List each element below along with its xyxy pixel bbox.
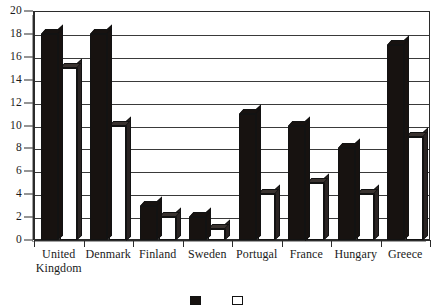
x-tick-mark: [282, 240, 283, 247]
y-tick-mark: [24, 148, 33, 149]
bar-face: [140, 206, 157, 240]
y-tick-mark: [24, 240, 33, 241]
y-tick-label: 4: [16, 188, 22, 200]
y-tick-label: 18: [10, 28, 22, 40]
y-tick-mark: [24, 217, 33, 218]
bar-face: [338, 148, 355, 240]
bar-side: [107, 24, 112, 240]
bar-side: [126, 116, 131, 240]
x-category-label: Denmark: [84, 247, 134, 261]
y-tick-mark: [24, 125, 33, 126]
y-tick-label: 12: [10, 97, 22, 109]
x-tick-mark: [84, 240, 85, 247]
x-category-label: United Kingdom: [34, 247, 84, 275]
x-tick-mark: [183, 240, 184, 247]
bar-face: [189, 217, 206, 240]
bar-side: [324, 173, 329, 240]
legend-item: [232, 296, 248, 305]
x-category-label: Portugal: [232, 247, 282, 261]
y-tick-label: 20: [10, 5, 22, 17]
y-tick-label: 10: [10, 120, 22, 132]
x-tick-mark: [430, 240, 431, 247]
bar-series1: [90, 34, 107, 240]
x-category-label: France: [282, 247, 332, 261]
bar-series1: [189, 217, 206, 240]
bar-series1: [239, 114, 256, 240]
x-tick-mark: [133, 240, 134, 247]
x-tick-mark: [381, 240, 382, 247]
y-tick-mark: [24, 171, 33, 172]
bar-side: [225, 219, 230, 240]
x-category-label: Sweden: [183, 247, 233, 261]
legend-item: [190, 296, 206, 305]
bars-layer: [34, 11, 430, 240]
bar-face: [41, 34, 58, 240]
bar-side: [404, 36, 409, 240]
bar-side: [423, 127, 428, 240]
x-tick-mark: [232, 240, 233, 247]
bar-side: [77, 59, 82, 240]
y-tick-label: 6: [16, 166, 22, 178]
y-tick-mark: [24, 79, 33, 80]
x-category-label: Finland: [133, 247, 183, 261]
y-tick-mark: [24, 11, 33, 12]
bar-series1: [387, 45, 404, 240]
bar-series1: [140, 206, 157, 240]
bar-series1: [41, 34, 58, 240]
legend-swatch: [232, 296, 243, 305]
bar-series1: [288, 126, 305, 241]
bar-face: [387, 45, 404, 240]
y-tick-mark: [24, 56, 33, 57]
bar-series1: [338, 148, 355, 240]
y-tick-mark: [24, 194, 33, 195]
y-tick-label: 0: [16, 234, 22, 246]
bar-side: [256, 105, 261, 240]
y-tick-label: 16: [10, 51, 22, 63]
x-category-label: Hungary: [331, 247, 381, 261]
x-tick-mark: [34, 240, 35, 247]
y-axis: 02468101214161820: [0, 11, 34, 240]
bar-face: [90, 34, 107, 240]
bar-side: [305, 116, 310, 240]
y-tick-label: 2: [16, 211, 22, 223]
bar-side: [58, 24, 63, 240]
y-tick-label: 8: [16, 143, 22, 155]
bar-chart-figure: 02468101214161820 United KingdomDenmarkF…: [0, 0, 438, 305]
y-tick-mark: [24, 33, 33, 34]
x-tick-mark: [331, 240, 332, 247]
legend-swatch: [190, 296, 201, 305]
x-category-label: Greece: [381, 247, 431, 261]
bar-face: [288, 126, 305, 241]
y-tick-mark: [24, 102, 33, 103]
bar-side: [355, 139, 360, 240]
bar-face: [239, 114, 256, 240]
y-tick-label: 14: [10, 74, 22, 86]
chart-legend: [0, 296, 438, 305]
